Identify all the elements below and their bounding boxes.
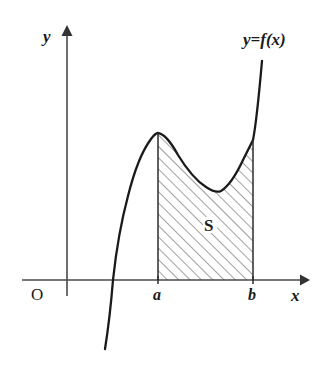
origin-label: O [31, 285, 43, 304]
y-axis-arrow-icon [62, 25, 73, 36]
lower-bound-label: a [153, 286, 161, 303]
function-label: y=f(x) [241, 30, 286, 49]
y-axis-label: y [41, 27, 51, 46]
area-hatch-pattern [150, 120, 265, 290]
x-axis-arrow-icon [300, 275, 310, 286]
upper-bound-label: b [248, 286, 256, 303]
integral-figure-container: y x O a b S y=f(x) [0, 0, 330, 373]
y-axis [62, 25, 73, 296]
integral-diagram: y x O a b S y=f(x) [0, 0, 330, 373]
x-axis-label: x [290, 286, 300, 305]
area-label: S [204, 216, 213, 235]
shaded-area-region [150, 120, 265, 290]
